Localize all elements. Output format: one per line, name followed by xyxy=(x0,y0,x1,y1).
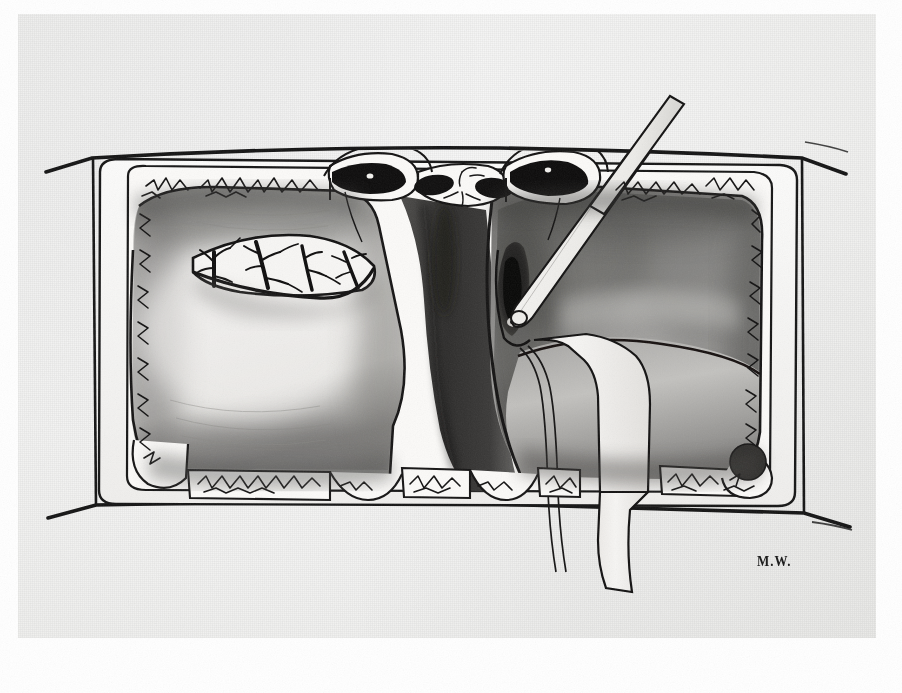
surgical-illustration-artwork xyxy=(0,0,902,693)
paper-grain-overlay xyxy=(18,14,876,638)
illustration-page: M.W. xyxy=(0,0,902,693)
artist-signature: M.W. xyxy=(757,552,792,570)
